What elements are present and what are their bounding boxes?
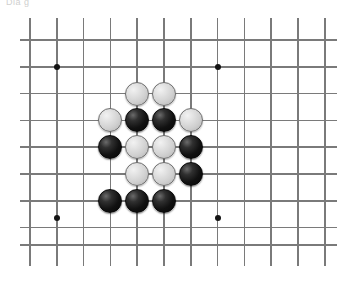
white-stone-8[interactable] bbox=[152, 162, 176, 186]
star-point-2 bbox=[215, 64, 221, 70]
grid-line-vertical-10 bbox=[270, 18, 272, 266]
grid-line-horizontal-8 bbox=[20, 227, 337, 229]
black-stone-4[interactable] bbox=[179, 135, 203, 159]
black-stone-6[interactable] bbox=[98, 189, 122, 213]
go-board-figure: Dia g bbox=[0, 0, 350, 282]
white-stone-1[interactable] bbox=[125, 82, 149, 106]
grid-line-horizontal-9 bbox=[20, 244, 337, 246]
go-board-grid[interactable] bbox=[0, 0, 350, 282]
grid-line-vertical-12 bbox=[324, 18, 326, 266]
grid-line-vertical-11 bbox=[297, 18, 299, 266]
black-stone-2[interactable] bbox=[152, 108, 176, 132]
white-stone-3[interactable] bbox=[98, 108, 122, 132]
white-stone-4[interactable] bbox=[179, 108, 203, 132]
white-stone-7[interactable] bbox=[125, 162, 149, 186]
grid-line-horizontal-7 bbox=[20, 200, 337, 202]
star-point-3 bbox=[54, 215, 60, 221]
grid-line-vertical-8 bbox=[217, 18, 219, 266]
grid-line-vertical-1 bbox=[29, 18, 31, 266]
grid-line-horizontal-2 bbox=[20, 66, 337, 68]
grid-line-vertical-2 bbox=[56, 18, 58, 266]
black-stone-5[interactable] bbox=[179, 162, 203, 186]
grid-line-vertical-3 bbox=[83, 18, 85, 266]
black-stone-3[interactable] bbox=[98, 135, 122, 159]
grid-line-horizontal-1 bbox=[20, 39, 337, 41]
white-stone-6[interactable] bbox=[152, 135, 176, 159]
black-stone-1[interactable] bbox=[125, 108, 149, 132]
star-point-1 bbox=[54, 64, 60, 70]
white-stone-2[interactable] bbox=[152, 82, 176, 106]
white-stone-5[interactable] bbox=[125, 135, 149, 159]
star-point-4 bbox=[215, 215, 221, 221]
grid-line-horizontal-3 bbox=[20, 93, 337, 95]
black-stone-8[interactable] bbox=[152, 189, 176, 213]
grid-line-vertical-9 bbox=[244, 18, 246, 266]
black-stone-7[interactable] bbox=[125, 189, 149, 213]
